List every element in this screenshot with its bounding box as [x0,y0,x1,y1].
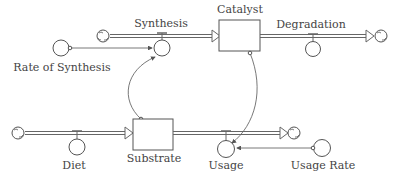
synthesis-flow[interactable] [110,30,220,56]
synthesis-label: Synthesis [134,18,188,30]
catalyst-label: Catalyst [217,4,263,16]
diet-label: Diet [62,160,85,172]
substrate-label: Substrate [127,153,181,165]
degradation-label: Degradation [276,19,345,31]
diet-flow[interactable] [25,127,133,155]
rate-of-synthesis-converter[interactable] [53,40,69,56]
cloud-icon [12,127,24,139]
connector [128,57,155,119]
usage-label: Usage [208,160,243,172]
catalyst-stock[interactable] [219,20,260,51]
usage-flow[interactable] [173,127,288,158]
usage-rate-converter[interactable] [314,140,331,157]
connector [232,53,257,143]
cloud-icon [375,30,387,42]
rate-of-synthesis-label: Rate of Synthesis [13,62,110,74]
substrate-stock[interactable] [133,119,173,150]
cloud-icon [288,127,300,139]
degradation-flow[interactable] [260,30,374,57]
usage-rate-label: Usage Rate [291,160,356,172]
cloud-icon [97,30,109,42]
